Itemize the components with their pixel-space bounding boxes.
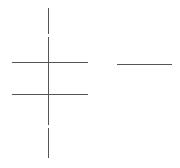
vertical-line xyxy=(48,8,49,158)
horizontal-line-lower-left xyxy=(12,94,88,95)
line-gap xyxy=(47,34,50,37)
line-gap xyxy=(47,125,50,128)
horizontal-line-upper-left xyxy=(12,62,88,63)
horizontal-line-right xyxy=(117,64,172,65)
